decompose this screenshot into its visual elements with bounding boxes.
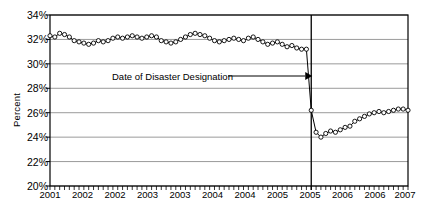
data-point-marker [280,42,284,46]
data-point-marker [193,31,197,35]
plot-area [0,0,422,220]
data-point-marker [116,35,120,39]
data-point-marker [275,40,279,44]
data-point-marker [237,37,241,41]
data-point-marker [338,128,342,132]
data-point-marker [328,129,332,133]
data-point-marker [67,35,71,39]
data-point-marker [140,36,144,40]
data-point-marker [343,125,347,129]
data-point-marker [270,41,274,45]
data-point-marker [87,42,91,46]
data-point-marker [164,40,168,44]
data-point-marker [48,34,52,38]
data-point-marker [106,39,110,43]
data-point-marker [362,114,366,118]
data-point-marker [319,135,323,139]
data-point-marker [227,37,231,41]
data-point-marker [358,117,362,121]
data-point-marker [198,32,202,36]
data-point-marker [406,108,410,112]
data-point-marker [295,46,299,50]
data-point-marker [251,35,255,39]
chart-container: Percent 20% 22% 24% 26% 28% 30% 32% 34% … [0,0,422,220]
data-point-marker [188,32,192,36]
data-point-marker [120,36,124,40]
data-point-marker [203,34,207,38]
data-point-marker [82,41,86,45]
data-point-marker [72,39,76,43]
data-point-marker [169,41,173,45]
data-point-marker [125,35,129,39]
data-point-marker [377,109,381,113]
data-point-marker [246,36,250,40]
data-point-marker [387,109,391,113]
data-point-marker [401,107,405,111]
data-point-marker [53,35,57,39]
data-point-marker [299,47,303,51]
data-point-marker [145,35,149,39]
data-point-marker [149,34,153,38]
data-point-marker [285,45,289,49]
data-point-marker [241,39,245,43]
data-point-marker [96,39,100,43]
data-point-marker [266,42,270,46]
data-point-marker [333,130,337,134]
data-point-marker [372,111,376,115]
data-point-marker [130,34,134,38]
data-point-marker [154,35,158,39]
data-point-marker [179,37,183,41]
data-point-marker [101,40,105,44]
data-point-marker [256,37,260,41]
data-point-marker [353,119,357,123]
data-point-marker [62,32,66,36]
data-point-marker [309,108,313,112]
data-point-marker [396,107,400,111]
data-point-marker [261,40,265,44]
data-point-marker [58,31,62,35]
data-point-marker [382,111,386,115]
data-point-marker [77,40,81,44]
data-point-marker [348,124,352,128]
data-point-marker [232,36,236,40]
data-point-marker [212,39,216,43]
data-point-marker [174,40,178,44]
data-point-marker [217,40,221,44]
data-point-marker [111,36,115,40]
data-point-marker [304,47,308,51]
data-point-marker [91,41,95,45]
data-point-marker [222,39,226,43]
data-point-marker [135,35,139,39]
data-point-marker [324,131,328,135]
data-point-marker [314,130,318,134]
data-point-marker [183,35,187,39]
data-point-marker [208,36,212,40]
data-point-marker [367,112,371,116]
data-point-marker [391,108,395,112]
data-point-marker [159,39,163,43]
data-point-marker [290,43,294,47]
